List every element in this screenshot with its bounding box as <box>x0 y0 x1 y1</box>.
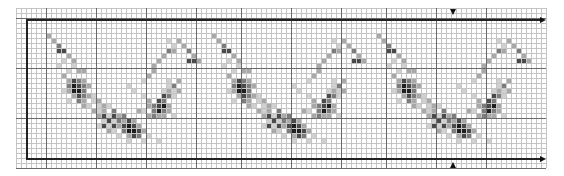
major-grid-line-vertical <box>196 8 197 168</box>
major-grid-line-vertical <box>486 8 487 168</box>
repeat-line-top <box>26 19 540 21</box>
major-grid-line-horizontal <box>16 68 546 69</box>
major-grid-line-vertical <box>291 8 292 168</box>
grid-line-vertical <box>546 8 547 168</box>
major-grid-line-horizontal <box>16 168 546 169</box>
major-grid-line-vertical <box>96 8 97 168</box>
arrow-right-icon <box>540 156 546 162</box>
repeat-line-bottom <box>26 158 540 160</box>
major-grid-line-horizontal <box>16 118 546 119</box>
cross-stitch-chart <box>0 0 564 176</box>
repeat-line-left <box>26 19 28 160</box>
major-grid-line-vertical <box>146 8 147 168</box>
arrow-up-icon <box>450 162 456 168</box>
arrow-right-icon <box>540 17 546 23</box>
major-grid-line-vertical <box>241 8 242 168</box>
major-grid-line-vertical <box>436 8 437 168</box>
arrow-down-icon <box>450 9 456 15</box>
major-grid-line-vertical <box>46 8 47 168</box>
major-grid-line-vertical <box>341 8 342 168</box>
major-grid-line-vertical <box>386 8 387 168</box>
